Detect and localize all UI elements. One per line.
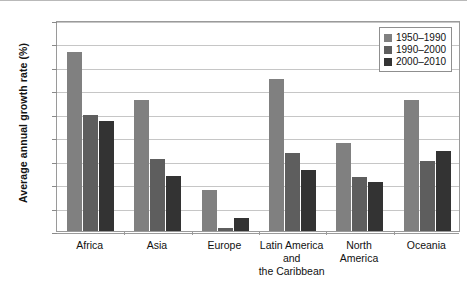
bar-group [192, 22, 259, 231]
bar [269, 79, 284, 231]
bar [301, 170, 316, 231]
legend: 1950–19901990–20002000–2010 [379, 27, 452, 72]
legend-label: 1950–1990 [396, 32, 446, 43]
bar [420, 161, 435, 231]
bar [83, 115, 98, 231]
bar [150, 159, 165, 231]
x-axis-category-label: NorthAmerica [325, 239, 392, 265]
x-axis-category-label: Oceania [393, 239, 460, 252]
bar [67, 52, 82, 231]
bar-group [57, 22, 124, 231]
x-axis-group-separator [192, 231, 193, 235]
chart-figure: Average annual growth rate (%) 00.511.52… [0, 0, 467, 295]
bar [134, 100, 149, 231]
bar [202, 190, 217, 231]
y-axis-title: Average annual growth rate (%) [17, 23, 29, 223]
bar [436, 151, 451, 231]
bar [166, 176, 181, 231]
legend-item: 2000–2010 [384, 56, 446, 67]
bar-group [259, 22, 326, 231]
bar [368, 182, 383, 231]
x-axis-group-separator [124, 231, 125, 235]
x-axis-category-label: Europe [191, 239, 258, 252]
bar [404, 100, 419, 231]
bar-group [124, 22, 191, 231]
legend-swatch-icon [384, 46, 392, 54]
bar [99, 121, 114, 231]
bar [218, 228, 233, 231]
x-axis-group-separator [259, 231, 260, 235]
legend-label: 2000–2010 [396, 56, 446, 67]
x-axis-category-label: Latin Americaandthe Caribbean [258, 239, 325, 278]
x-axis-labels: AfricaAsiaEuropeLatin Americaandthe Cari… [56, 239, 460, 291]
bar [336, 143, 351, 231]
bar [234, 218, 249, 231]
bar [285, 153, 300, 231]
x-axis-category-label: Asia [123, 239, 190, 252]
legend-swatch-icon [384, 34, 392, 42]
gridline [57, 233, 459, 234]
legend-item: 1950–1990 [384, 32, 446, 43]
legend-swatch-icon [384, 58, 392, 66]
x-axis-group-separator [394, 231, 395, 235]
x-axis-category-label: Africa [56, 239, 123, 252]
x-axis-group-separator [326, 231, 327, 235]
legend-item: 1990–2000 [384, 44, 446, 55]
bar [352, 177, 367, 231]
y-axis-tick-mark [52, 233, 57, 234]
legend-label: 1990–2000 [396, 44, 446, 55]
